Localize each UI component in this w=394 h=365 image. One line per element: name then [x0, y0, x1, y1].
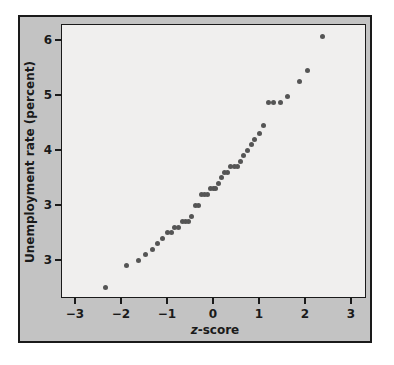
data-point [160, 236, 165, 241]
data-point [238, 159, 243, 164]
data-point [235, 164, 240, 169]
data-point [245, 148, 250, 153]
y-tick [55, 204, 61, 206]
x-tick [258, 298, 260, 304]
x-tick [350, 298, 352, 304]
y-tick [55, 39, 61, 41]
data-point [271, 100, 276, 105]
y-tick [55, 259, 61, 261]
x-axis-title-italic: z [191, 323, 198, 337]
x-tick-label: 0 [198, 307, 228, 321]
y-tick-label: 6 [34, 34, 52, 46]
data-point [249, 142, 254, 147]
data-point [205, 192, 210, 197]
y-tick [55, 94, 61, 96]
data-point [136, 258, 141, 263]
data-point [225, 170, 230, 175]
x-tick-label: 2 [290, 307, 320, 321]
plot-area [61, 24, 366, 298]
x-tick-label: 3 [336, 307, 366, 321]
x-tick [304, 298, 306, 304]
data-point [261, 123, 266, 128]
data-point [176, 225, 181, 230]
data-point [257, 131, 262, 136]
data-point [196, 203, 201, 208]
data-point [169, 230, 174, 235]
data-point [305, 68, 310, 73]
data-point [252, 137, 257, 142]
data-point [320, 34, 325, 39]
x-tick-label: −1 [152, 307, 182, 321]
x-tick-label: −2 [106, 307, 136, 321]
x-axis-title: z-score [180, 323, 250, 337]
data-point [150, 247, 155, 252]
y-axis-title: Unemployment rate (percent) [23, 52, 37, 272]
x-tick [120, 298, 122, 304]
data-point [297, 79, 302, 84]
data-point [189, 214, 194, 219]
x-axis-title-rest: -score [198, 323, 240, 337]
x-tick-label: −3 [60, 307, 90, 321]
data-point [266, 100, 271, 105]
x-tick [166, 298, 168, 304]
x-tick [74, 298, 76, 304]
x-tick-label: 1 [244, 307, 274, 321]
data-point [278, 100, 283, 105]
x-tick [212, 298, 214, 304]
y-tick [55, 149, 61, 151]
